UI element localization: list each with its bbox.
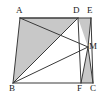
vertex-label-m: M <box>89 42 97 51</box>
vertex-label-f: F <box>77 84 82 93</box>
vertex-label-b: B <box>9 84 15 93</box>
vertex-label-c: C <box>90 84 96 93</box>
vertex-label-e: E <box>87 6 93 15</box>
vertex-label-a: A <box>16 6 23 15</box>
geometry-figure: A B C D E F M <box>0 0 99 98</box>
vertex-label-d: D <box>73 6 80 15</box>
